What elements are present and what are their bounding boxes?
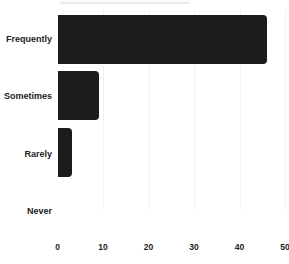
bar-sometimes [58,71,99,120]
category-label: Never [27,206,52,216]
x-tick-label: 30 [189,242,198,252]
x-tick-label: 50 [280,242,289,252]
x-tick-label: 0 [55,242,60,252]
bar-rarely [58,128,72,177]
bar-frequently [58,15,267,64]
x-tick-label: 40 [235,242,244,252]
category-label: Frequently [6,34,52,44]
x-tick-label: 20 [144,242,153,252]
category-label: Rarely [24,149,52,159]
category-label: Sometimes [4,91,52,101]
chart-title-cutoff [60,0,190,4]
gridline [285,10,286,210]
x-tick-label: 10 [98,242,107,252]
